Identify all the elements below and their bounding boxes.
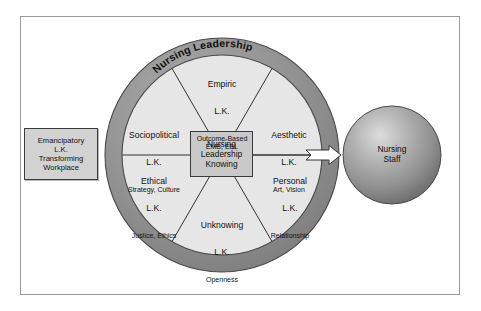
personal-name: Personal <box>250 177 330 187</box>
aesthetic-name: Aesthetic <box>252 131 326 141</box>
sociopolitical-name: Sociopolitical <box>114 131 194 141</box>
emancipatory-line4: Workplace <box>43 163 79 172</box>
unknowing-lk: L.K. <box>178 248 266 258</box>
unknowing-name: Unknowing <box>178 221 266 231</box>
staff-line1: Nursing <box>378 144 407 154</box>
emancipatory-lk-text: EmancipatoryL.K.TransformingWorkplace <box>38 136 84 173</box>
emancipatory-line3: Transforming <box>39 154 83 163</box>
emancipatory-line2: L.K. <box>54 145 68 154</box>
diagram-canvas: Nursing Leadership EmancipatoryL.K.Trans… <box>0 0 481 311</box>
empiric-name: Empiric <box>176 80 268 90</box>
unknowing-detail: Openness <box>178 276 266 284</box>
segment-label-unknowing: Unknowing L.K. Openness <box>178 203 266 302</box>
nursing-staff-label: NursingStaff <box>357 144 427 164</box>
ethical-name: Ethical <box>118 177 190 187</box>
staff-line2: Staff <box>383 154 400 164</box>
emancipatory-lk-box: EmancipatoryL.K.TransformingWorkplace <box>24 128 98 180</box>
emancipatory-line1: Emancipatory <box>38 136 84 145</box>
